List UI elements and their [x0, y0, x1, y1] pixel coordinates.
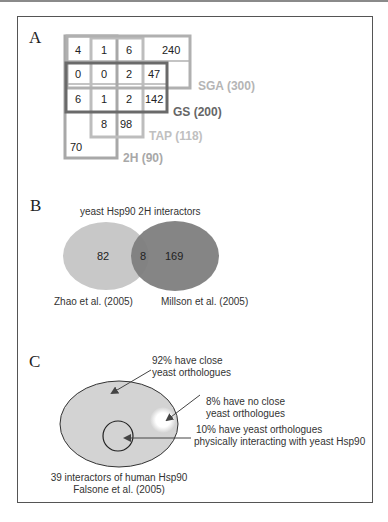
cell-r3c3: 2 [126, 93, 132, 105]
ortholog-diagram: 92% have close yeast orthologues 8% have… [51, 355, 366, 495]
cell-r4c3: 98 [120, 118, 132, 130]
caption-line1: 39 interactors of human Hsp90 [51, 472, 188, 483]
venn-diagram: yeast Hsp90 2H interactors 82 8 169 Zhao… [54, 206, 248, 307]
annotation-physical-line1: 10% have yeast orthologues [196, 424, 322, 435]
cell-r2c4: 47 [148, 68, 160, 80]
annotation-close-line2: yeast orthologues [152, 367, 231, 378]
cell-r1c2: 1 [101, 44, 107, 56]
cell-r3c1: 6 [75, 93, 81, 105]
cell-r1c1: 4 [75, 44, 81, 56]
annotation-noclose-line1: 8% have no close [206, 396, 285, 407]
set-2h-label: 2H (90) [123, 151, 163, 165]
overlap-grid: 4 1 6 240 0 0 2 47 6 1 2 142 8 98 70 SGA… [65, 36, 255, 165]
caption-line2: Falsone et al. (2005) [73, 484, 165, 495]
cell-r3c2: 1 [101, 93, 107, 105]
venn-right-source: Millson et al. (2005) [161, 296, 248, 307]
cell-r4c2: 8 [101, 118, 107, 130]
cell-r2c1: 0 [75, 68, 81, 80]
venn-title: yeast Hsp90 2H interactors [80, 206, 201, 217]
venn-left-count: 82 [97, 250, 109, 262]
annotation-close-line1: 92% have close [152, 355, 223, 366]
cell-r1c3: 6 [126, 44, 132, 56]
annotation-noclose-line2: yeast orthologues [206, 408, 285, 419]
venn-overlap-count: 8 [140, 250, 146, 262]
cell-r1c4: 240 [162, 44, 180, 56]
set-tap-label: TAP (118) [149, 129, 203, 143]
cell-r2c2: 0 [101, 68, 107, 80]
annotation-physical-line2: physically interacting with yeast Hsp90 [194, 436, 366, 447]
figure-canvas: 4 1 6 240 0 0 2 47 6 1 2 142 8 98 70 SGA… [0, 0, 388, 522]
set-gs-label: GS (200) [173, 105, 222, 119]
venn-right-count: 169 [165, 250, 183, 262]
cell-r2c3: 2 [126, 68, 132, 80]
no-ortholog-spot [150, 407, 176, 433]
cell-r5c1: 70 [70, 141, 82, 153]
set-sga-label: SGA (300) [198, 79, 255, 93]
cell-r3c4: 142 [145, 93, 163, 105]
venn-left-source: Zhao et al. (2005) [54, 296, 133, 307]
